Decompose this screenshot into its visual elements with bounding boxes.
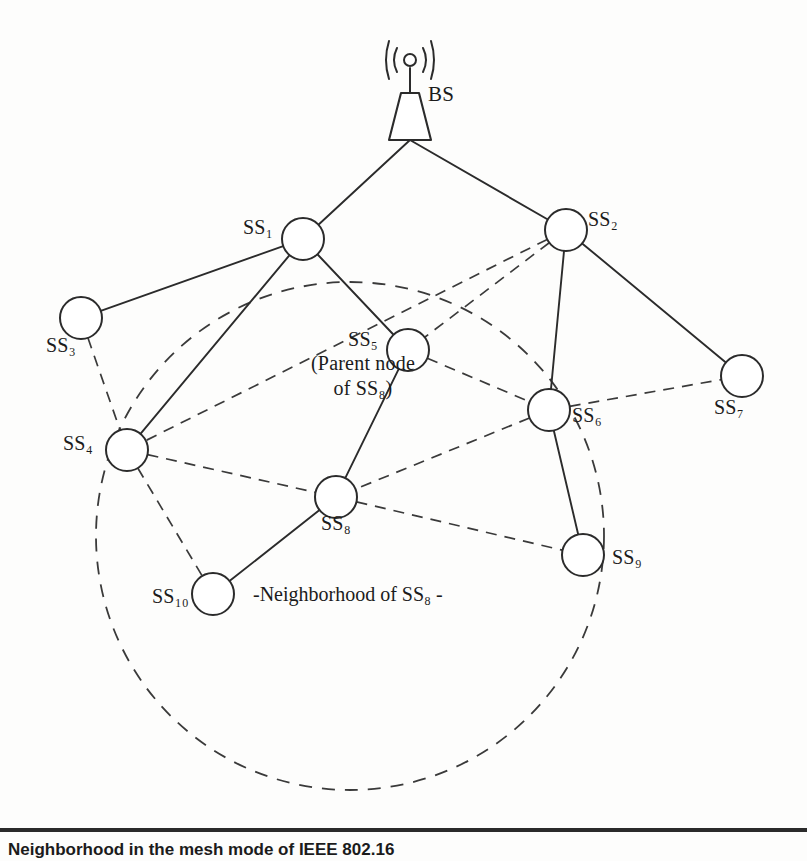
node-label-ss10: SS₁₀ bbox=[152, 585, 189, 608]
node-label-ss2: SS₂ bbox=[588, 208, 618, 231]
node-ss3[interactable] bbox=[60, 297, 102, 339]
node-ss1[interactable] bbox=[282, 218, 324, 260]
node-ss10[interactable] bbox=[192, 573, 234, 615]
dashed-links-group bbox=[88, 239, 721, 576]
node-ss7[interactable] bbox=[721, 355, 763, 397]
caption-divider-rule bbox=[0, 828, 807, 832]
node-label-ss7: SS₇ bbox=[714, 396, 744, 419]
base-station-label: BS bbox=[428, 82, 454, 106]
dashed-link-ss3-ss4 bbox=[88, 338, 120, 430]
node-ss6[interactable] bbox=[528, 389, 570, 431]
base-station-signal-arc-right-2 bbox=[431, 41, 434, 79]
node-label-ss8: SS₈ bbox=[321, 512, 351, 535]
node-label-ss5: SS₅(Parent nodeof SS₈) bbox=[268, 327, 458, 400]
base-station-tower-body bbox=[389, 93, 431, 140]
dashed-link-ss6-ss8 bbox=[355, 418, 529, 489]
base-station-signal-arc-right-1 bbox=[423, 48, 426, 72]
figure-caption: Neighborhood in the mesh mode of IEEE 80… bbox=[8, 840, 798, 860]
node-label-ss3: SS₃ bbox=[46, 334, 76, 357]
solid-link-ss6-ss9 bbox=[554, 430, 578, 534]
solid-link-ss8-ss10 bbox=[229, 510, 319, 581]
solid-link-bs-ss1 bbox=[318, 140, 410, 225]
solid-link-ss2-ss7 bbox=[582, 243, 726, 362]
node-label-ss5-parent-line1: (Parent node bbox=[311, 352, 415, 374]
base-station-symbol bbox=[386, 41, 434, 140]
base-station-signal-arc-left-1 bbox=[394, 48, 397, 72]
node-label-ss4: SS₄ bbox=[63, 432, 93, 455]
base-station-signal-arc-left-2 bbox=[386, 41, 389, 79]
dashed-link-ss4-ss8 bbox=[147, 455, 315, 493]
dashed-link-ss6-ss7 bbox=[570, 380, 722, 407]
solid-link-bs-ss2 bbox=[410, 140, 548, 220]
solid-link-ss2-ss6 bbox=[551, 251, 564, 389]
subscriber-station-nodes-group bbox=[60, 209, 763, 615]
dashed-link-ss4-ss10 bbox=[138, 468, 202, 576]
solid-link-ss1-ss3 bbox=[101, 246, 283, 311]
node-label-ss6: SS₆ bbox=[572, 404, 602, 427]
node-label-ss1: SS₁ bbox=[243, 216, 273, 239]
node-ss4[interactable] bbox=[106, 429, 148, 471]
node-label-ss5-name: SS₅ bbox=[348, 328, 378, 350]
neighborhood-region-label: -Neighborhood of SS₈ - bbox=[253, 583, 443, 606]
base-station-antenna-dot-icon bbox=[404, 54, 416, 66]
figure-root: SS₁SS₂SS₃SS₄SS₅(Parent nodeof SS₈)SS₆SS₇… bbox=[0, 0, 807, 861]
node-ss9[interactable] bbox=[562, 534, 604, 576]
node-label-ss5-parent-line2: of SS₈) bbox=[334, 377, 393, 399]
network-topology-diagram bbox=[0, 0, 807, 861]
node-ss2[interactable] bbox=[545, 209, 587, 251]
dashed-link-ss8-ss9 bbox=[356, 502, 562, 550]
solid-link-ss1-ss5 bbox=[317, 254, 393, 334]
node-label-ss9: SS₉ bbox=[612, 546, 642, 569]
